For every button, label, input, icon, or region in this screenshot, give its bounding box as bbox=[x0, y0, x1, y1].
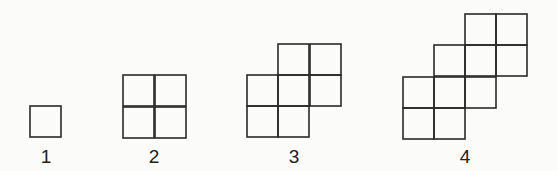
figure-4: 4 bbox=[403, 14, 527, 167]
figure-label: 4 bbox=[460, 146, 471, 167]
square-cell bbox=[278, 106, 309, 137]
figure-3: 3 bbox=[247, 44, 341, 167]
figure-1: 1 bbox=[30, 106, 61, 167]
figure-label: 1 bbox=[41, 146, 52, 167]
figure-label: 2 bbox=[149, 146, 160, 167]
square-cell bbox=[434, 108, 465, 139]
square-pattern-diagram: 1234 bbox=[0, 0, 557, 171]
square-cell bbox=[496, 45, 527, 76]
square-cell bbox=[247, 106, 278, 137]
square-cell bbox=[434, 45, 465, 76]
square-cell bbox=[30, 106, 61, 137]
square-cell bbox=[465, 77, 496, 108]
square-cell bbox=[403, 77, 434, 108]
square-cell bbox=[496, 14, 527, 45]
square-cell bbox=[155, 75, 186, 106]
square-cell bbox=[465, 14, 496, 45]
square-cell bbox=[403, 108, 434, 139]
square-cell bbox=[123, 107, 154, 138]
square-cell bbox=[310, 75, 341, 106]
figure-label: 3 bbox=[289, 146, 300, 167]
square-cell bbox=[278, 75, 309, 106]
square-cell bbox=[247, 75, 278, 106]
square-cell bbox=[465, 45, 496, 76]
square-cell bbox=[155, 107, 186, 138]
square-cell bbox=[310, 44, 341, 75]
square-cell bbox=[123, 75, 154, 106]
figure-2: 2 bbox=[123, 75, 186, 167]
square-cell bbox=[434, 77, 465, 108]
square-cell bbox=[278, 44, 309, 75]
